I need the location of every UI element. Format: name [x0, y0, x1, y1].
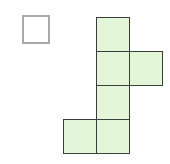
net-cell-second: [96, 51, 130, 86]
net-cell-bottom-left: [63, 119, 97, 154]
net-cell-top: [96, 17, 130, 52]
empty-square: [22, 15, 50, 44]
net-cell-third: [96, 85, 130, 120]
net-cell-right: [129, 51, 163, 86]
net-cell-bottom: [96, 119, 130, 154]
